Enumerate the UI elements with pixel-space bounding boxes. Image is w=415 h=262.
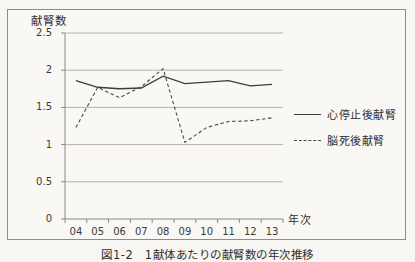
y-tick-label: 1.5 [20, 102, 52, 112]
legend-label: 脳死後献腎 [327, 132, 385, 148]
y-tick-label: 2 [20, 65, 52, 75]
x-tick-label: 09 [174, 227, 196, 237]
x-tick-label: 08 [152, 227, 174, 237]
series-line-solid [76, 76, 272, 89]
x-axis-title: 年次 [288, 211, 312, 227]
legend-entry-cardiac: 心停止後献腎 [294, 106, 396, 122]
legend-entry-braindeath: 脳死後献腎 [294, 132, 396, 148]
y-tick-label: 1 [20, 140, 52, 150]
x-tick-label: 07 [130, 227, 152, 237]
x-tick-label: 10 [196, 227, 218, 237]
y-tick-label: 2.5 [20, 28, 52, 38]
y-tick-label: 0 [20, 214, 52, 224]
x-tick-label: 11 [218, 227, 240, 237]
legend: 心停止後献腎 脳死後献腎 [294, 106, 396, 158]
x-tick-label: 04 [65, 227, 87, 237]
legend-label: 心停止後献腎 [327, 106, 396, 122]
figure-caption: 図1-2 1献体あたりの献腎数の年次推移 [0, 246, 415, 262]
x-tick-label: 05 [87, 227, 109, 237]
y-tick-label: 0.5 [20, 177, 52, 187]
x-tick-label: 06 [109, 227, 131, 237]
dashed-line-sample-icon [294, 140, 321, 141]
x-tick-label: 13 [261, 227, 283, 237]
solid-line-sample-icon [294, 114, 321, 115]
x-tick-label: 12 [239, 227, 261, 237]
